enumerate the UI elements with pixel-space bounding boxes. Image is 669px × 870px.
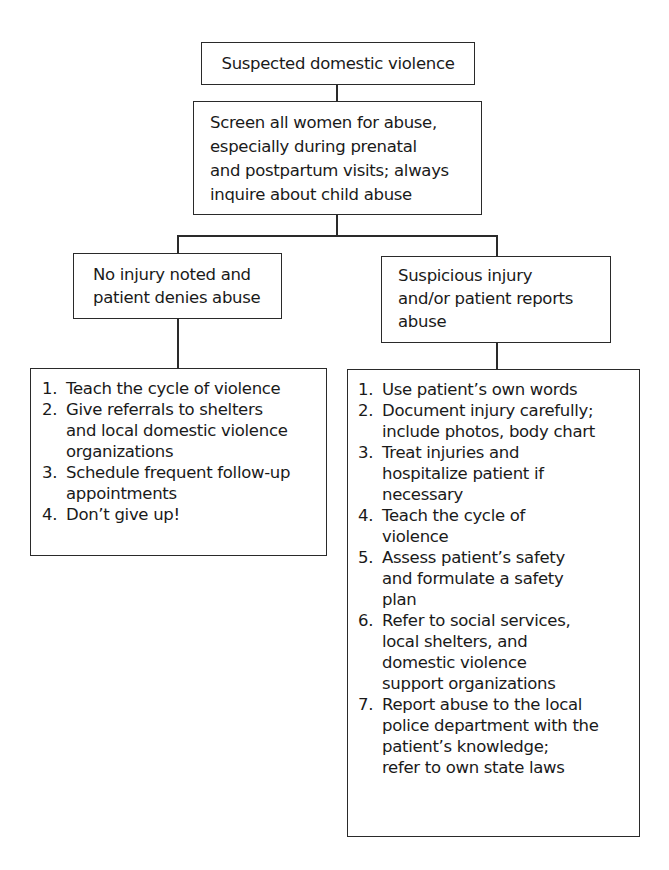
- step-text: domestic violence: [382, 652, 635, 673]
- step-text: appointments: [66, 483, 320, 504]
- action-step: 1. Use patient’s own words: [358, 379, 635, 400]
- condition-line: abuse: [398, 310, 610, 333]
- screening-line: especially during prenatal: [210, 135, 481, 159]
- step-text: patient’s knowledge;: [382, 736, 635, 757]
- step-text: Document injury carefully;: [382, 400, 635, 421]
- action-list-suspicious-injury: 1. Use patient’s own words 2. Document i…: [347, 369, 640, 837]
- condition-node-no-injury: No injury noted and patient denies abuse: [73, 253, 282, 319]
- action-step: 4. Don’t give up!: [42, 504, 320, 525]
- screening-line: inquire about child abuse: [210, 183, 481, 207]
- step-text: and local domestic violence: [66, 420, 320, 441]
- step-text: Treat injuries and: [382, 442, 635, 463]
- condition-line: patient denies abuse: [93, 286, 281, 309]
- screening-line: Screen all women for abuse,: [210, 111, 481, 135]
- step-number: 5.: [358, 547, 382, 610]
- step-text: plan: [382, 589, 635, 610]
- step-text: Use patient’s own words: [382, 379, 635, 400]
- step-text: Give referrals to shelters: [66, 399, 320, 420]
- action-step: 5. Assess patient’s safety and formulate…: [358, 547, 635, 610]
- screening-line: and postpartum visits; always: [210, 159, 481, 183]
- step-text: and formulate a safety: [382, 568, 635, 589]
- step-text: refer to own state laws: [382, 757, 635, 778]
- connector-split-to-right: [496, 235, 498, 257]
- step-text: Schedule frequent follow-up: [66, 462, 320, 483]
- step-text: Assess patient’s safety: [382, 547, 635, 568]
- step-number: 4.: [42, 504, 66, 525]
- connector-screen-to-split: [336, 214, 338, 236]
- step-text: Teach the cycle of violence: [66, 378, 320, 399]
- step-text: violence: [382, 526, 635, 547]
- action-steps-list: 1. Use patient’s own words 2. Document i…: [358, 379, 635, 778]
- root-node-label: Suspected domestic violence: [221, 53, 454, 74]
- action-step: 2. Give referrals to shelters and local …: [42, 399, 320, 462]
- step-text: include photos, body chart: [382, 421, 635, 442]
- step-number: 1.: [358, 379, 382, 400]
- step-number: 7.: [358, 694, 382, 778]
- step-text: hospitalize patient if: [382, 463, 635, 484]
- action-step: 3. Schedule frequent follow-up appointme…: [42, 462, 320, 504]
- connector-right-condition-to-actions: [496, 342, 498, 370]
- action-steps-list: 1. Teach the cycle of violence 2. Give r…: [42, 378, 320, 525]
- connector-left-condition-to-actions: [177, 318, 179, 369]
- step-number: 6.: [358, 610, 382, 694]
- action-step: 6. Refer to social services, local shelt…: [358, 610, 635, 694]
- step-number: 2.: [358, 400, 382, 442]
- screening-node: Screen all women for abuse, especially d…: [193, 101, 482, 215]
- step-number: 1.: [42, 378, 66, 399]
- step-number: 3.: [42, 462, 66, 504]
- step-text: Teach the cycle of: [382, 505, 635, 526]
- action-step: 3. Treat injuries and hospitalize patien…: [358, 442, 635, 505]
- step-number: 4.: [358, 505, 382, 547]
- step-text: organizations: [66, 441, 320, 462]
- condition-line: and/or patient reports: [398, 287, 610, 310]
- step-text: Report abuse to the local: [382, 694, 635, 715]
- step-text: necessary: [382, 484, 635, 505]
- step-number: 3.: [358, 442, 382, 505]
- connector-split-horizontal: [177, 235, 498, 237]
- root-node-suspected-domestic-violence: Suspected domestic violence: [201, 42, 475, 85]
- action-list-no-injury: 1. Teach the cycle of violence 2. Give r…: [30, 368, 327, 556]
- step-text: support organizations: [382, 673, 635, 694]
- step-text: Refer to social services,: [382, 610, 635, 631]
- action-step: 7. Report abuse to the local police depa…: [358, 694, 635, 778]
- condition-line: Suspicious injury: [398, 264, 610, 287]
- step-text: Don’t give up!: [66, 504, 320, 525]
- condition-line: No injury noted and: [93, 263, 281, 286]
- step-text: police department with the: [382, 715, 635, 736]
- connector-split-to-left: [177, 235, 179, 254]
- action-step: 1. Teach the cycle of violence: [42, 378, 320, 399]
- condition-node-suspicious-injury: Suspicious injury and/or patient reports…: [381, 256, 611, 343]
- action-step: 4. Teach the cycle of violence: [358, 505, 635, 547]
- step-number: 2.: [42, 399, 66, 462]
- connector-root-to-screen: [336, 84, 338, 101]
- action-step: 2. Document injury carefully; include ph…: [358, 400, 635, 442]
- step-text: local shelters, and: [382, 631, 635, 652]
